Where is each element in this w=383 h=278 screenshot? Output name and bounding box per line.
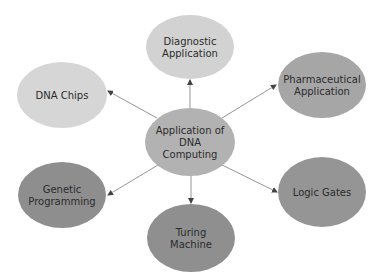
edge-to-dna-chips	[108, 91, 157, 118]
node-turing-machine: TuringMachine	[147, 204, 235, 272]
node-center-label: Computing	[163, 149, 218, 160]
node-diagnostic-label: Application	[162, 48, 218, 59]
node-pharmaceutical-label: Application	[294, 86, 350, 97]
node-dna-chips: DNA Chips	[17, 62, 107, 128]
dna-computing-diagram: DiagnosticApplicationDNA ChipsPharmaceut…	[0, 0, 383, 278]
node-turing-machine-label: Machine	[170, 239, 212, 250]
node-center-label: DNA	[179, 137, 201, 148]
node-dna-chips-label: DNA Chips	[36, 90, 89, 101]
node-logic-gates: Logic Gates	[278, 157, 366, 227]
node-genetic-programming-label: Programming	[28, 196, 95, 207]
node-logic-gates-label: Logic Gates	[293, 187, 351, 198]
nodes-group: DiagnosticApplicationDNA ChipsPharmaceut…	[17, 15, 366, 272]
node-pharmaceutical: PharmaceuticalApplication	[278, 52, 366, 118]
node-genetic-programming: GeneticProgramming	[18, 162, 106, 228]
node-genetic-programming-label: Genetic	[43, 184, 82, 195]
node-diagnostic: DiagnosticApplication	[146, 15, 234, 79]
edge-to-logic-gates	[222, 165, 277, 192]
node-pharmaceutical-label: Pharmaceutical	[283, 74, 360, 85]
node-center-label: Application of	[156, 125, 225, 136]
edge-to-pharmaceutical	[222, 85, 276, 118]
node-turing-machine-label: Turing	[175, 227, 207, 238]
node-center: Application ofDNAComputing	[145, 108, 235, 176]
edge-to-genetic-programming	[108, 165, 158, 195]
node-diagnostic-label: Diagnostic	[164, 36, 217, 47]
